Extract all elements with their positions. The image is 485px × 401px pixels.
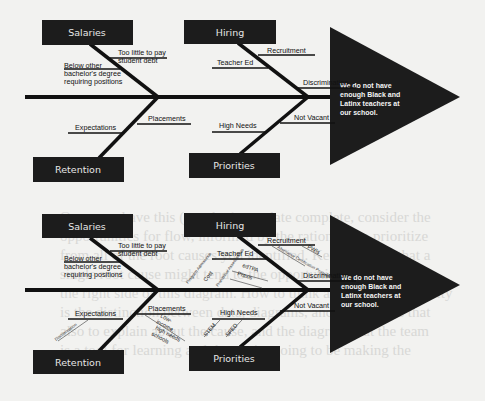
sub-cause-label: Cost [202, 270, 214, 283]
cause-label: Expectations [75, 123, 117, 132]
effect-text: Latinx teachers at [341, 292, 401, 299]
category-priorities: Priorities [189, 346, 280, 371]
cause-label: Not Vacant [294, 301, 329, 310]
category-label: Priorities [213, 160, 255, 171]
effect-text: We do not have [341, 274, 393, 281]
bone-retention [99, 290, 158, 351]
effect-text: our school. [340, 109, 378, 116]
category-label: Retention [55, 357, 101, 368]
cause-label: High Needs [220, 308, 258, 317]
sub-cause-label: Praxis [237, 270, 254, 281]
sub-cause-label: Discrimination [54, 322, 79, 342]
fishbone-diagram-detailed: We do not have enough Black and Latinx t… [25, 213, 460, 374]
category-priorities: Priorities [189, 153, 280, 178]
category-hiring: Hiring [184, 20, 276, 44]
cause-label: Teacher Ed [217, 58, 253, 67]
category-salaries: Salaries [42, 20, 133, 45]
cause-label: Discrimination [303, 271, 348, 280]
category-salaries: Salaries [42, 214, 133, 238]
category-label: Salaries [68, 27, 106, 38]
cause-label: Recruitment [267, 46, 306, 55]
effect-text: Latinx teachers at [340, 100, 400, 107]
sub-cause-label: PWIs [307, 244, 322, 256]
effect-text: enough Black and [341, 283, 401, 291]
category-label: Salaries [68, 221, 106, 232]
cause-label: Discrimination [303, 78, 348, 87]
category-hiring: Hiring [184, 213, 276, 237]
fishbone-diagram-basic: We do not have enough Black and Latinx t… [25, 20, 460, 182]
effect-text: our school. [341, 301, 379, 308]
cause-label: High Needs [219, 121, 257, 130]
effect-text: enough Black and [340, 91, 400, 99]
cause-label: requiring positions [64, 270, 123, 279]
cause-label: Not Vacant [294, 113, 329, 122]
category-retention: Retention [33, 157, 124, 182]
cause-label: student debt [118, 56, 158, 65]
cause-label: Placements [148, 114, 186, 123]
sub-cause-label: SPED [224, 322, 238, 338]
cause-label: Expectations [75, 309, 117, 318]
category-retention: Retention [33, 350, 124, 374]
fishbone-diagrams: We do not have enough Black and Latinx t… [0, 0, 485, 401]
sub-cause-label: STEM [202, 322, 217, 338]
cause-label: student debt [118, 249, 158, 258]
sub-cause-line [230, 279, 262, 288]
cause-label: Recruitment [267, 236, 306, 245]
category-label: Priorities [213, 353, 255, 364]
category-label: Hiring [216, 27, 244, 38]
category-label: Retention [55, 164, 101, 175]
cause-label: requiring positions [64, 77, 123, 86]
category-label: Hiring [216, 220, 244, 231]
cause-label: Placements [148, 304, 186, 313]
